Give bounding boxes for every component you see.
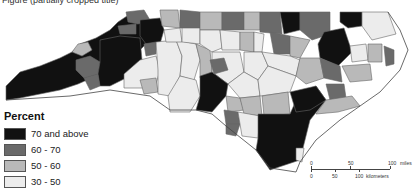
county-region	[220, 30, 240, 50]
county-region	[118, 24, 136, 34]
county-region	[164, 28, 182, 42]
county-region	[290, 36, 310, 58]
legend-item: 30 - 50	[4, 174, 89, 189]
county-region	[296, 148, 304, 162]
county-region	[180, 10, 200, 28]
county-region	[296, 58, 324, 84]
county-region	[182, 28, 200, 44]
county-region	[384, 46, 394, 66]
county-region	[140, 78, 158, 94]
legend-label: 50 - 60	[31, 160, 61, 171]
county-region	[238, 112, 260, 138]
scale-km-unit: kilometers	[366, 173, 389, 179]
scale-km-label-100: 100	[355, 173, 363, 179]
county-region	[280, 12, 300, 34]
county-region	[244, 12, 260, 30]
county-region	[144, 42, 156, 56]
legend-label: 70 and above	[31, 128, 89, 139]
county-region	[342, 64, 372, 82]
county-region	[222, 12, 244, 30]
legend-swatch-icon	[4, 176, 26, 188]
legend-swatch-icon	[4, 160, 26, 172]
legend-item: 70 and above	[4, 126, 89, 141]
county-region	[270, 32, 290, 54]
county-region	[350, 44, 368, 62]
county-region	[254, 32, 264, 52]
county-region	[260, 12, 282, 34]
legend-item: 60 - 70	[4, 142, 89, 157]
county-region	[240, 32, 254, 52]
county-region	[140, 18, 164, 44]
county-region	[160, 10, 180, 28]
county-region	[200, 12, 222, 30]
county-region	[368, 44, 382, 62]
county-region	[226, 124, 240, 136]
legend-swatch-icon	[4, 144, 26, 156]
legend-item: 50 - 60	[4, 158, 89, 173]
legend-label: 60 - 70	[31, 144, 61, 155]
county-region	[224, 110, 240, 124]
legend-label: 30 - 50	[31, 176, 61, 187]
figure-title-cropped: Figure (partially cropped title)	[2, 0, 119, 5]
scale-km-label-50: 50	[332, 173, 338, 179]
scale-miles-unit: miles	[400, 160, 412, 166]
legend-title: Percent	[4, 110, 89, 122]
county-region	[340, 12, 362, 28]
scale-bar: 0 50 100 miles 0 50 100 kilometers	[308, 158, 416, 188]
legend-swatch-icon	[4, 128, 26, 140]
scale-km-label-0: 0	[310, 173, 313, 179]
county-region	[262, 92, 290, 116]
legend: Percent 70 and above 60 - 70 50 - 60 30 …	[4, 110, 89, 190]
